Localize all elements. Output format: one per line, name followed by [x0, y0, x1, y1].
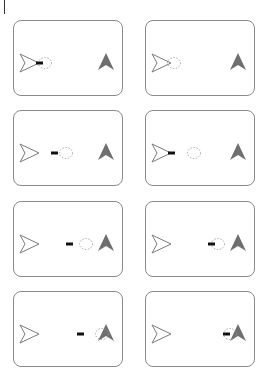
outline-arrow-icon: [20, 325, 39, 343]
frame-panel-5: [13, 201, 123, 277]
projectile-dash: [77, 333, 84, 336]
outline-arrow-icon: [152, 235, 171, 253]
frame-panel-2: [145, 20, 255, 96]
filled-arrow-icon: [230, 324, 246, 341]
dotted-circle-marker: [188, 148, 201, 159]
frame-panel-1: [13, 20, 123, 96]
filled-arrow-icon: [230, 143, 246, 160]
projectile-dash: [168, 152, 175, 155]
outline-arrow-icon: [152, 325, 171, 343]
outline-arrow-icon: [20, 235, 39, 253]
frame-panel-6: [145, 201, 255, 277]
filled-arrow-icon: [98, 143, 114, 160]
outline-arrow-icon: [152, 54, 171, 72]
projectile-dash: [51, 152, 58, 155]
projectile-dash: [223, 333, 230, 336]
filled-arrow-icon: [230, 53, 246, 70]
filled-arrow-icon: [98, 53, 114, 70]
projectile-dash: [208, 243, 215, 246]
frame-panel-8: [145, 291, 255, 367]
projectile-dash: [36, 62, 43, 65]
frame-panel-7: [13, 291, 123, 367]
dotted-circle-marker: [60, 148, 73, 159]
outline-arrow-icon: [20, 144, 39, 162]
frame-panel-4: [145, 110, 255, 186]
filled-arrow-icon: [98, 324, 114, 341]
projectile-dash: [66, 243, 73, 246]
corner-tick-mark: [4, 0, 5, 14]
filled-arrow-icon: [98, 234, 114, 251]
dotted-circle-marker: [80, 239, 93, 250]
frame-panel-3: [13, 110, 123, 186]
filled-arrow-icon: [230, 234, 246, 251]
